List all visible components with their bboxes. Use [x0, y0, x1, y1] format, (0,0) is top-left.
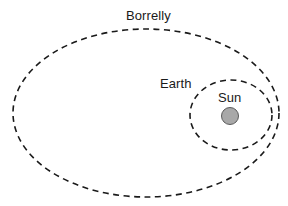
diagram-background — [0, 0, 288, 206]
sun-body-label: Sun — [218, 91, 241, 104]
borrelly-orbit-label: Borrelly — [126, 9, 171, 22]
orbit-diagram-canvas — [0, 0, 288, 206]
orbit-diagram: Borrelly Earth Sun — [0, 0, 288, 206]
earth-orbit-label: Earth — [160, 77, 192, 90]
sun-body-circle — [222, 108, 239, 125]
